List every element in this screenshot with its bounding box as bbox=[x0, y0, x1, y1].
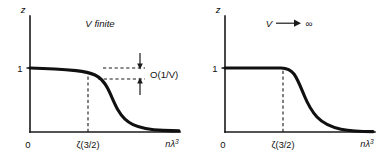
y-tick-label-one: 1 bbox=[17, 63, 22, 74]
plot-panel-v-infinite: z 1 0 ζ(3/2) nλ3 infinity (symbol, thick… bbox=[195, 0, 390, 157]
x-origin-label: 0 bbox=[220, 139, 225, 150]
gap-arrow-lower bbox=[137, 78, 143, 96]
curve-z-infinite-v bbox=[225, 68, 373, 132]
y-tick-label-one: 1 bbox=[212, 63, 217, 74]
figure-root: z 1 0 ζ(3/2) nλ3 V finite O(1/V) z bbox=[0, 0, 390, 157]
x-axis-label: nλ3 bbox=[165, 138, 179, 149]
panel-condition-group: V ∞ bbox=[266, 18, 313, 29]
y-axis-label: z bbox=[215, 4, 221, 15]
x-origin-label: 0 bbox=[25, 139, 30, 150]
gap-arrow-upper bbox=[137, 53, 143, 70]
x-axis-label-base: nλ bbox=[165, 139, 175, 149]
x-axis-label-exponent: 3 bbox=[370, 138, 374, 145]
plot-panel-v-finite: z 1 0 ζ(3/2) nλ3 V finite O(1/V) bbox=[0, 0, 195, 157]
x-axis-label-base: nλ bbox=[360, 139, 370, 149]
x-tick-label-zeta: ζ(3/2) bbox=[77, 140, 100, 150]
condition-arrow-head bbox=[294, 20, 301, 27]
y-axis-label: z bbox=[20, 4, 26, 15]
panel-condition-label: V finite bbox=[85, 18, 114, 29]
x-tick-label-zeta: ζ(3/2) bbox=[272, 140, 295, 150]
condition-limit: ∞ bbox=[306, 18, 313, 29]
order-one-over-v-annotation: O(1/V) bbox=[150, 69, 178, 80]
x-axis-label: nλ3 bbox=[360, 138, 374, 149]
x-axis-label-exponent: 3 bbox=[175, 138, 179, 145]
condition-symbol: V bbox=[266, 18, 274, 29]
